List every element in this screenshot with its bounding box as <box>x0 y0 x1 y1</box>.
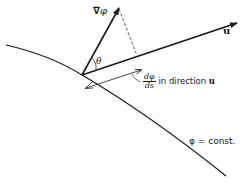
gradient-diagram <box>0 0 242 183</box>
unit-vector-label: u <box>223 26 230 36</box>
derivative-suffix: in direction <box>156 76 209 86</box>
angle-theta-label: θ <box>96 57 101 66</box>
directional-derivative-label: dφ ds in direction u <box>143 73 215 91</box>
unit-vector-u <box>82 23 237 75</box>
projection-arrow-tail <box>85 82 93 89</box>
projection-arrow <box>86 70 141 88</box>
label-leader <box>132 74 140 82</box>
direction-u: u <box>209 76 215 86</box>
projection-dashed-line <box>119 9 136 53</box>
phi-symbol: φ <box>100 5 107 16</box>
level-curve-label: φ = const. <box>189 137 235 146</box>
nabla-symbol: ∇ <box>93 5 100 16</box>
fraction-denominator: ds <box>145 82 154 90</box>
gradient-label: ∇φ <box>93 6 107 16</box>
derivative-fraction: dφ ds <box>143 73 156 91</box>
level-curve <box>6 45 226 176</box>
